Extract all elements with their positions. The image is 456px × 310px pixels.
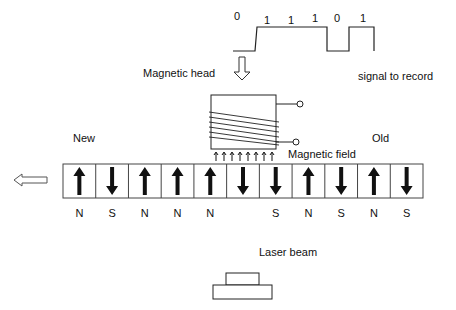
head-label: Magnetic head	[143, 67, 215, 79]
pole-label: N	[200, 207, 220, 219]
bit-label: 1	[264, 14, 270, 26]
pole-label: S	[102, 207, 122, 219]
field-label: Magnetic field	[288, 148, 356, 160]
pole-label: N	[135, 207, 155, 219]
pole-label: N	[364, 207, 384, 219]
pole-label: N	[69, 207, 89, 219]
terminal-icon	[293, 139, 299, 145]
tape-strip	[63, 164, 423, 198]
bit-label: 1	[360, 12, 366, 24]
laser-source-base	[213, 285, 272, 299]
tape-direction-arrow-icon	[14, 174, 47, 186]
terminal-icon	[297, 101, 303, 107]
old-label: Old	[372, 132, 389, 144]
signal-label: signal to record	[358, 70, 433, 82]
new-label: New	[73, 132, 95, 144]
laser-label: Laser beam	[259, 246, 317, 258]
pole-label: S	[331, 207, 351, 219]
down-arrow-icon	[234, 57, 250, 80]
bit-label: 1	[288, 14, 294, 26]
field-arrows	[214, 152, 274, 161]
laser-source-top	[226, 273, 259, 285]
pole-label: N	[168, 207, 188, 219]
pole-label: S	[397, 207, 417, 219]
bit-label: 0	[234, 10, 240, 22]
bit-label: 0	[334, 12, 340, 24]
diagram-canvas	[0, 0, 456, 310]
bit-label: 1	[312, 12, 318, 24]
pole-label: S	[266, 207, 286, 219]
pole-label: N	[298, 207, 318, 219]
signal-waveform	[233, 27, 374, 51]
